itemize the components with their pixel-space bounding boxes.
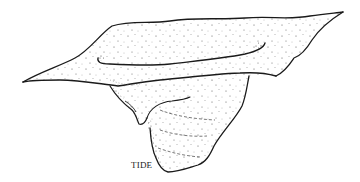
cap — [23, 12, 343, 86]
illustration: TIDE — [0, 0, 360, 182]
stem — [110, 76, 249, 172]
drawing-canvas — [0, 0, 360, 182]
tide-label: TIDE — [131, 160, 152, 170]
